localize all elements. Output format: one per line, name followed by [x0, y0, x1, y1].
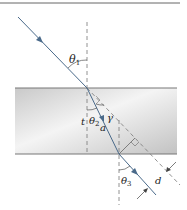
theta1-label: θ1	[69, 53, 80, 67]
theta3-arc	[119, 166, 130, 170]
theta3-label: θ3	[121, 175, 132, 188]
a-label: a	[100, 122, 106, 133]
d-label: d	[155, 175, 161, 186]
gamma-label: γ	[107, 112, 113, 123]
incident-ray	[18, 17, 87, 88]
refraction-diagram: θ1 t θ2 γ a θ3 d	[0, 0, 187, 210]
